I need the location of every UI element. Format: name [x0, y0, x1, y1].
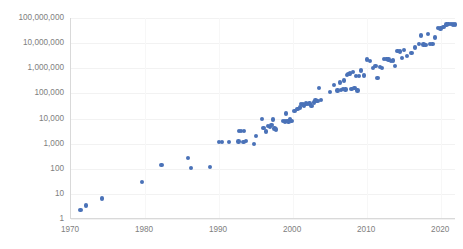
- gridline-horizontal: [71, 93, 455, 94]
- data-point: [375, 76, 379, 80]
- gridline-vertical: [293, 18, 294, 218]
- y-axis-tick-label: 1: [0, 215, 64, 223]
- data-point: [236, 139, 240, 143]
- x-axis-tick-label: 1970: [50, 226, 90, 234]
- y-axis-tick-label: 10,000,000: [0, 39, 64, 47]
- gridline-horizontal: [71, 169, 455, 170]
- data-point: [84, 203, 88, 207]
- data-point: [244, 139, 248, 143]
- y-axis-tick-label: 1,000,000: [0, 64, 64, 72]
- data-point: [242, 129, 246, 133]
- data-point: [400, 56, 404, 60]
- data-point: [186, 156, 190, 160]
- data-point: [362, 73, 366, 77]
- x-axis-tick-label: 1980: [124, 226, 164, 234]
- data-point: [433, 35, 437, 39]
- data-point: [380, 66, 384, 70]
- data-point: [159, 163, 163, 167]
- data-point: [260, 117, 264, 121]
- gridline-horizontal: [71, 18, 455, 19]
- data-point: [274, 127, 278, 131]
- data-point: [317, 86, 321, 90]
- x-axis-tick-label: 2020: [420, 226, 460, 234]
- data-point: [357, 74, 361, 78]
- data-point: [332, 83, 336, 87]
- data-point: [402, 48, 406, 52]
- x-axis-tick-label: 1990: [198, 226, 238, 234]
- data-point: [319, 98, 323, 102]
- data-point: [78, 208, 82, 212]
- scatter-chart: 1101001,00010,000100,0001,000,00010,000,…: [0, 0, 463, 249]
- y-axis-tick-label: 10,000: [0, 115, 64, 123]
- x-axis-tick-label: 2010: [346, 226, 386, 234]
- data-point: [342, 78, 346, 82]
- data-point: [391, 58, 395, 62]
- data-point: [100, 196, 104, 200]
- data-point: [254, 134, 258, 138]
- data-point: [430, 42, 434, 46]
- gridline-horizontal: [71, 144, 455, 145]
- data-point: [284, 111, 288, 115]
- gridline-horizontal: [71, 194, 455, 195]
- data-point: [413, 45, 417, 49]
- data-point: [264, 129, 268, 133]
- gridline-vertical: [367, 18, 368, 218]
- gridline-horizontal: [71, 219, 455, 220]
- gridline-vertical: [441, 18, 442, 218]
- y-axis-tick-label: 1,000: [0, 140, 64, 148]
- data-point: [289, 119, 293, 123]
- y-axis-tick-label: 100,000,000: [0, 14, 64, 22]
- data-point: [140, 180, 144, 184]
- data-point: [368, 59, 372, 63]
- gridline-horizontal: [71, 43, 455, 44]
- data-point: [409, 51, 413, 55]
- y-axis-tick-label: 10: [0, 190, 64, 198]
- data-point: [227, 140, 231, 144]
- data-point: [373, 64, 377, 68]
- data-point: [453, 22, 457, 26]
- data-point: [355, 88, 359, 92]
- data-point: [405, 54, 409, 58]
- gridline-vertical: [219, 18, 220, 218]
- data-point: [252, 142, 256, 146]
- data-point: [343, 87, 347, 91]
- y-axis-tick-label: 100,000: [0, 89, 64, 97]
- data-point: [426, 32, 430, 36]
- data-point: [271, 117, 275, 121]
- plot-area: [70, 18, 455, 219]
- gridline-horizontal: [71, 68, 455, 69]
- data-point: [189, 166, 193, 170]
- x-axis-tick-label: 2000: [272, 226, 312, 234]
- y-axis-tick-label: 100: [0, 165, 64, 173]
- gridline-vertical: [145, 18, 146, 218]
- data-point: [419, 33, 423, 37]
